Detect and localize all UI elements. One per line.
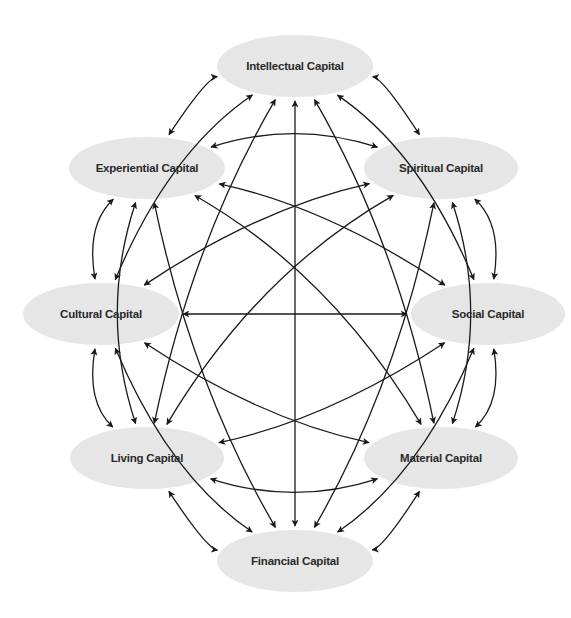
node-label-intellectual: Intellectual Capital [246, 60, 344, 72]
edge-spiritual-social [475, 199, 496, 279]
capital-network-diagram: Intellectual CapitalSpiritual CapitalSoc… [0, 0, 571, 618]
node-label-spiritual: Spiritual Capital [399, 162, 483, 174]
edge-financial-living [169, 491, 218, 550]
edge-spiritual-living [167, 195, 393, 424]
node-label-cultural: Cultural Capital [60, 308, 142, 320]
edge-material-financial [372, 491, 419, 550]
edge-spiritual-experiential [211, 134, 377, 148]
edge-spiritual-cultural [144, 184, 369, 286]
edge-material-living [211, 479, 378, 493]
edge-intellectual-experiential [169, 77, 217, 135]
node-label-material: Material Capital [400, 452, 482, 464]
node-label-financial: Financial Capital [251, 555, 339, 567]
node-label-social: Social Capital [452, 308, 525, 320]
node-label-living: Living Capital [111, 452, 184, 464]
edge-material-experiential [195, 196, 421, 425]
edge-intellectual-spiritual [373, 77, 420, 135]
edge-living-cultural [93, 349, 113, 427]
edge-cultural-experiential [93, 199, 114, 279]
edge-material-cultural [145, 343, 370, 443]
edge-social-living [219, 343, 445, 443]
node-label-experiential: Experiential Capital [96, 162, 199, 174]
edge-social-material [475, 349, 496, 427]
